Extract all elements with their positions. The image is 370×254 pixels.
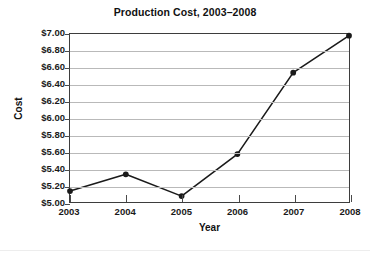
gridline-horizontal xyxy=(70,136,349,137)
gridline-horizontal xyxy=(70,68,349,69)
y-axis-tick-mark xyxy=(65,136,70,137)
y-axis-tick-mark xyxy=(65,34,70,35)
y-axis-tick-label: $7.00 xyxy=(17,28,65,38)
x-axis-tick-label: 2003 xyxy=(47,206,91,217)
y-axis-tick-label: $5.80 xyxy=(17,130,65,140)
x-axis-tick-mark xyxy=(239,195,240,202)
y-axis-tick-mark xyxy=(65,85,70,86)
x-axis-tick-label: 2005 xyxy=(159,206,203,217)
data-point-marker: 2007: $6.54 xyxy=(290,70,296,76)
x-axis-tick-mark xyxy=(126,195,127,202)
gridline-horizontal xyxy=(70,187,349,188)
x-axis-tick-mark xyxy=(70,195,71,202)
y-axis-tick-mark xyxy=(65,119,70,120)
y-axis-tick-label: $5.20 xyxy=(17,181,65,191)
y-axis-tick-label: $6.20 xyxy=(17,96,65,106)
y-axis-tick-mark xyxy=(65,153,70,154)
gridline-horizontal xyxy=(70,153,349,154)
y-axis-tick-label: $6.80 xyxy=(17,45,65,55)
y-axis-tick-label: $6.40 xyxy=(17,79,65,89)
x-axis-tick-mark xyxy=(295,195,296,202)
gridline-horizontal xyxy=(70,170,349,171)
data-point-marker: 2004: $5.33 xyxy=(123,171,129,177)
x-axis-tick-label: 2008 xyxy=(328,206,370,217)
x-axis-tick-label: 2004 xyxy=(103,206,147,217)
y-axis-tick-label: $5.40 xyxy=(17,164,65,174)
data-point-marker: 2003: $5.13 xyxy=(67,188,73,194)
x-axis-tick-label: 2006 xyxy=(216,206,260,217)
x-axis-title: Year xyxy=(69,222,350,233)
gridline-horizontal xyxy=(70,119,349,120)
y-axis-tick-mark xyxy=(65,170,70,171)
y-axis-tick-mark xyxy=(65,51,70,52)
series-polyline xyxy=(70,36,349,196)
y-axis-tick-mark xyxy=(65,102,70,103)
chart-title: Production Cost, 2003–2008 xyxy=(0,6,370,18)
y-axis-tick-label: $5.60 xyxy=(17,147,65,157)
y-axis-tick-mark xyxy=(65,68,70,69)
y-axis-tick-labels: $7.00$6.80$6.60$6.40$6.20$6.00$5.80$5.60… xyxy=(12,33,65,203)
x-axis-tick-labels: 200320042005200620072008 xyxy=(69,206,350,220)
y-axis-tick-mark xyxy=(65,204,70,205)
bottom-divider xyxy=(0,250,370,251)
data-series-line: 2003: $5.132004: $5.332005: $5.072006: $… xyxy=(70,34,349,202)
production-cost-line-chart: Production Cost, 2003–2008 Cost $7.00$6.… xyxy=(0,0,370,254)
x-axis-tick-mark xyxy=(182,195,183,202)
gridline-horizontal xyxy=(70,51,349,52)
y-axis-tick-label: $6.00 xyxy=(17,113,65,123)
y-axis-tick-label: $6.60 xyxy=(17,62,65,72)
x-axis-tick-label: 2007 xyxy=(272,206,316,217)
data-point-marker: 2008: $6.98 xyxy=(346,33,352,39)
y-axis-tick-mark xyxy=(65,187,70,188)
x-axis-tick-mark xyxy=(351,195,352,202)
gridline-horizontal xyxy=(70,102,349,103)
gridline-horizontal xyxy=(70,85,349,86)
plot-area: 2003: $5.132004: $5.332005: $5.072006: $… xyxy=(69,33,350,203)
